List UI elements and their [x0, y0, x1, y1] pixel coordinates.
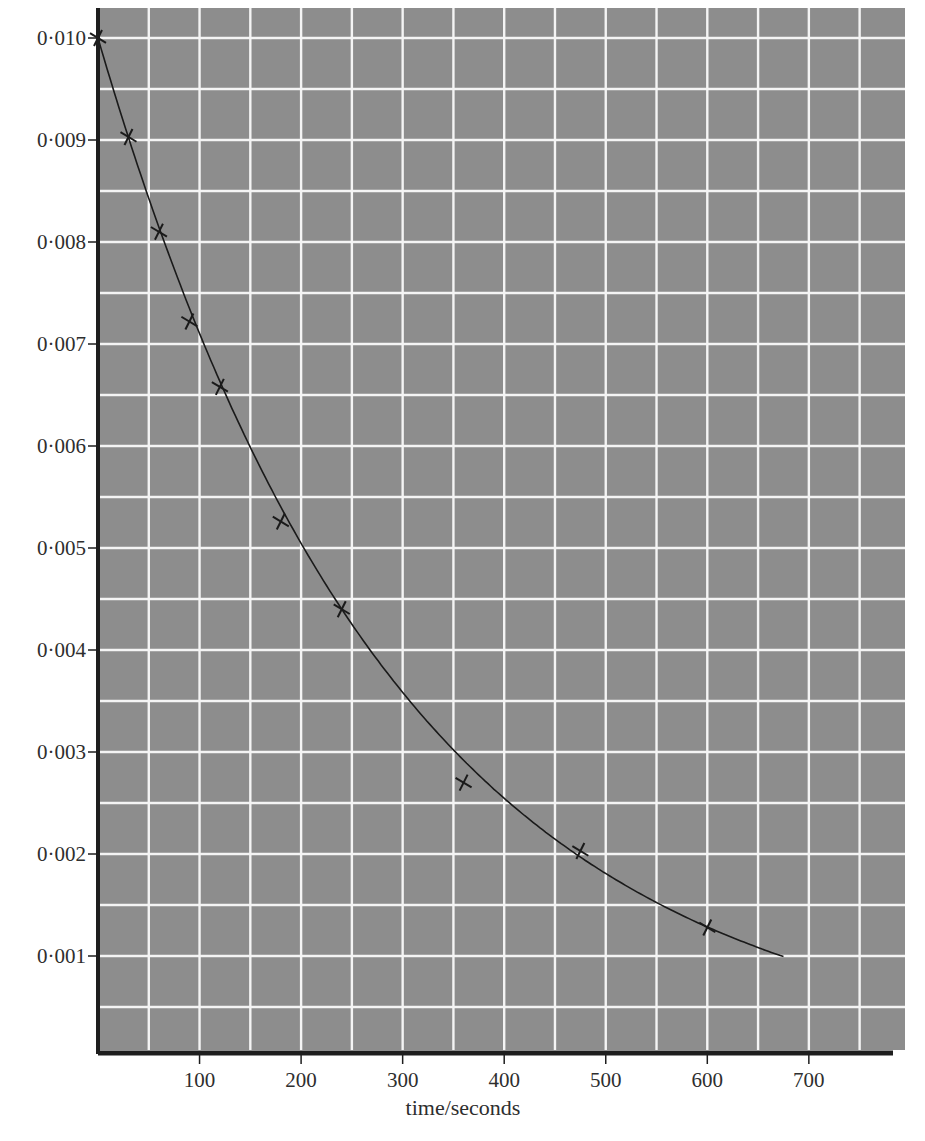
- chart: mole dm⁻³ 0·0010·0020·0030·0040·0050·006…: [0, 0, 925, 1141]
- y-tick-label: 0·009: [37, 128, 86, 152]
- y-tick-label: 0·005: [37, 536, 86, 560]
- x-tick-label: 300: [387, 1068, 419, 1092]
- chart-canvas: mole dm⁻³ 0·0010·0020·0030·0040·0050·006…: [0, 0, 925, 1141]
- y-tick-label: 0·008: [37, 230, 86, 254]
- x-axis-ticks: 100200300400500600700: [184, 1053, 825, 1092]
- y-tick-label: 0·004: [37, 638, 86, 662]
- y-tick-label: 0·010: [37, 26, 86, 50]
- x-tick-label: 600: [692, 1068, 724, 1092]
- y-axis-ticks: 0·0010·0020·0030·0040·0050·0060·0070·008…: [37, 26, 98, 968]
- y-tick-label: 0·003: [37, 740, 86, 764]
- plot-area: [98, 8, 905, 1050]
- x-axis-title: time/seconds: [406, 1095, 521, 1120]
- y-tick-label: 0·002: [37, 842, 86, 866]
- y-tick-label: 0·007: [37, 332, 86, 356]
- plot-background: [98, 8, 905, 1050]
- x-tick-label: 100: [184, 1068, 216, 1092]
- x-tick-label: 200: [285, 1068, 317, 1092]
- y-tick-label: 0·006: [37, 434, 86, 458]
- y-tick-label: 0·001: [37, 944, 86, 968]
- x-tick-label: 500: [590, 1068, 622, 1092]
- x-tick-label: 700: [793, 1068, 825, 1092]
- y-axis-title: mole dm⁻³: [0, 0, 96, 3]
- x-tick-label: 400: [488, 1068, 520, 1092]
